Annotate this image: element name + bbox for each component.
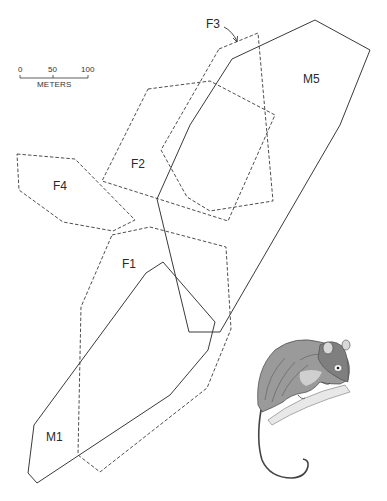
possum-illustration: [258, 340, 350, 478]
scale-unit-label: METERS: [37, 81, 72, 89]
home-range-f2: [102, 81, 275, 221]
scale-tick-0: 0: [18, 66, 22, 74]
scale-tick-100: 100: [81, 66, 94, 74]
home-range-polygons: [17, 20, 370, 483]
range-label-f4: F4: [53, 180, 67, 192]
range-label-m1: M1: [46, 431, 63, 443]
scale-bar: [20, 75, 88, 78]
home-range-f3: [161, 33, 273, 211]
home-range-m1: [28, 262, 215, 483]
range-label-f2: F2: [131, 158, 145, 170]
range-label-m5: M5: [303, 73, 320, 85]
home-range-f4: [17, 154, 135, 231]
scale-tick-50: 50: [48, 66, 57, 74]
range-label-f1: F1: [122, 258, 136, 270]
home-range-map: [0, 0, 387, 501]
home-range-m5: [157, 20, 370, 332]
range-label-f3: F3: [206, 18, 220, 30]
f3-pointer-arrow: [224, 27, 238, 42]
